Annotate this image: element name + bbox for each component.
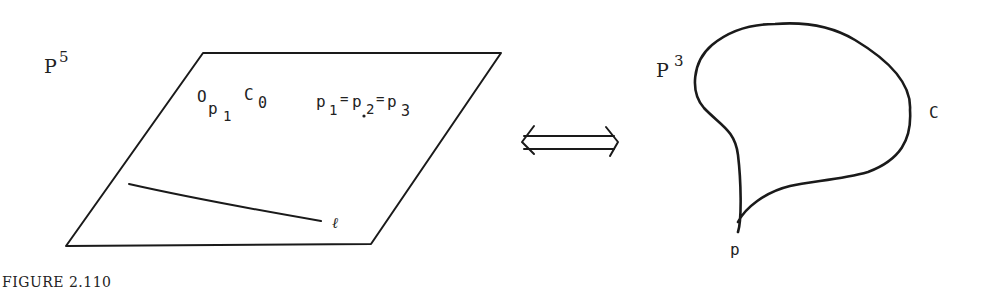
exponent-5: 5: [59, 48, 69, 66]
eq-sub-1: 1: [329, 102, 337, 118]
p3-label: P 3: [656, 52, 684, 81]
coincident-points-equation: p 1 = p 2 = p 3: [316, 91, 410, 120]
eq-p3: p: [387, 92, 397, 111]
p5-label: P 5: [44, 48, 69, 77]
exponent-3: 3: [674, 52, 684, 70]
osculating-plane-label: O p 1 C 0: [197, 85, 267, 124]
label-sub-1: 1: [223, 108, 231, 124]
curve-c: [695, 23, 910, 232]
label-C: C: [244, 85, 254, 104]
label-sub-0: 0: [258, 94, 267, 112]
eq-p2: p: [352, 92, 362, 111]
plane-parallelogram: [66, 53, 501, 246]
blackboard-p-label: P: [44, 55, 57, 77]
figure-caption: FIGURE 2.110: [2, 274, 112, 290]
eq-sub-3: 3: [401, 102, 410, 120]
label-O: O: [197, 87, 207, 106]
label-sub-p: p: [208, 99, 218, 118]
cusp-point-p-label: p: [730, 240, 740, 259]
blackboard-p-label-right: P: [656, 59, 669, 81]
eq-p1: p: [316, 92, 326, 111]
eq-sub-2: 2: [366, 101, 374, 117]
figure-canvas: P 5 O p 1 C 0 p 1 = p 2 = p 3 ℓ P 3 C p: [0, 0, 984, 306]
eq-equals-2: =: [376, 91, 384, 107]
eq-equals-1: =: [340, 91, 348, 107]
line-l: [129, 184, 321, 221]
line-l-label: ℓ: [332, 214, 338, 232]
curve-c-label: C: [929, 103, 939, 122]
double-arrow-icon: [522, 126, 618, 156]
